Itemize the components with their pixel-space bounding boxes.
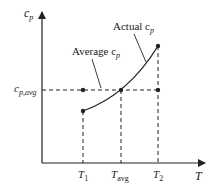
actual-cp-label: Actual cp <box>113 20 154 35</box>
y-tick-cp-avg: cp,avg <box>14 82 36 97</box>
x-tick-t2: T2 <box>153 168 163 183</box>
x-tick-tavg: Tavg <box>111 168 129 183</box>
point-t2-high <box>156 44 160 48</box>
cp-diagram: cp T cp,avg T1 Tavg T2 Average cp Actual… <box>0 0 216 193</box>
average-cp-leader <box>92 59 101 88</box>
point-t1-avg <box>81 88 85 92</box>
x-tick-t1: T1 <box>78 168 88 183</box>
y-axis-label: cp <box>24 6 33 22</box>
actual-cp-leader <box>134 34 146 62</box>
x-axis-label: T <box>195 169 203 183</box>
average-cp-label: Average cp <box>72 45 120 60</box>
point-t1-low <box>81 109 85 113</box>
point-tavg <box>119 88 123 92</box>
point-t2-avg <box>156 88 160 92</box>
